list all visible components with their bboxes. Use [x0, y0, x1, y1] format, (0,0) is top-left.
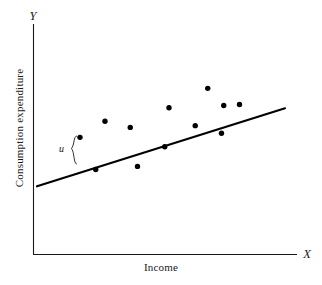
plot-canvas: Y X u — [0, 0, 322, 285]
data-point — [166, 105, 171, 110]
scatter-figure: Y X u Consumption expenditure Income — [0, 0, 322, 285]
y-axis-title-wrap: Consumption expenditure — [8, 0, 30, 255]
y-axis-symbol: Y — [30, 9, 39, 23]
data-point — [219, 131, 224, 136]
data-point — [102, 119, 107, 124]
data-point — [193, 123, 198, 128]
data-point — [93, 167, 98, 172]
residual-label: u — [59, 143, 64, 154]
data-point — [162, 144, 167, 149]
data-point — [77, 135, 82, 140]
y-axis-title: Consumption expenditure — [13, 68, 25, 187]
regression-line — [37, 108, 285, 186]
data-point — [221, 103, 226, 108]
residual-brace-icon — [72, 136, 77, 164]
data-point — [205, 86, 210, 91]
x-axis-title: Income — [0, 261, 322, 273]
data-point — [135, 164, 140, 169]
x-axis-symbol: X — [302, 247, 312, 261]
data-point — [128, 125, 133, 130]
data-point — [237, 102, 242, 107]
